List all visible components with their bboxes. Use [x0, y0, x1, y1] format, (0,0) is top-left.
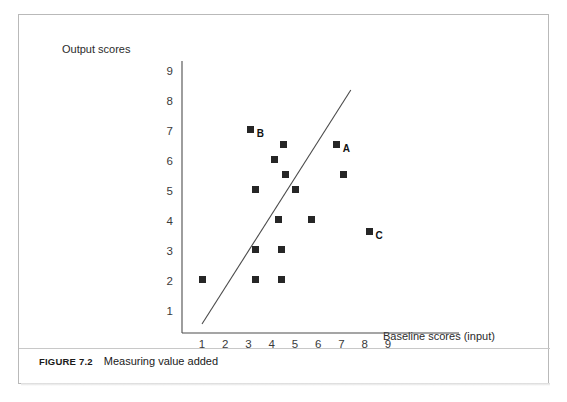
- data-point-label: A: [343, 143, 350, 154]
- caption-divider: [19, 348, 550, 349]
- data-point: [282, 171, 289, 178]
- data-point: [252, 186, 259, 193]
- data-point: [366, 228, 373, 235]
- y-tick-label: 1: [161, 305, 173, 317]
- figure-caption: FIGURE 7.2Measuring value added: [39, 355, 218, 367]
- y-tick-label: 9: [161, 65, 173, 77]
- data-point: [308, 216, 315, 223]
- y-tick-label: 6: [161, 155, 173, 167]
- data-point: [340, 171, 347, 178]
- chart-plot-area: Output scores Baseline scores (input) 12…: [19, 15, 550, 345]
- data-point: [292, 186, 299, 193]
- data-point: [280, 141, 287, 148]
- data-point: [278, 246, 285, 253]
- data-point: [278, 276, 285, 283]
- y-tick-label: 4: [161, 215, 173, 227]
- data-point-label: B: [257, 128, 264, 139]
- y-tick-label: 8: [161, 95, 173, 107]
- data-point: [247, 126, 254, 133]
- data-point: [333, 141, 340, 148]
- figure-number: FIGURE 7.2: [39, 356, 93, 367]
- chart-axes: [19, 15, 550, 345]
- data-point: [252, 276, 259, 283]
- y-tick-label: 3: [161, 245, 173, 257]
- data-point: [199, 276, 206, 283]
- figure-container: Output scores Baseline scores (input) 12…: [18, 14, 549, 384]
- y-tick-label: 7: [161, 125, 173, 137]
- y-tick-label: 5: [161, 185, 173, 197]
- data-point: [275, 216, 282, 223]
- trend-line: [202, 90, 351, 324]
- y-tick-label: 2: [161, 275, 173, 287]
- data-point: [252, 246, 259, 253]
- figure-caption-text: Measuring value added: [104, 355, 218, 367]
- data-point: [271, 156, 278, 163]
- data-point-label: C: [375, 230, 382, 241]
